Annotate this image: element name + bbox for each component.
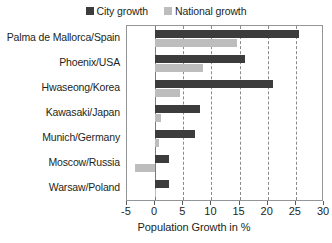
- x-tick-label: 15: [232, 205, 244, 218]
- bar-group: [127, 26, 322, 51]
- bar-national: [155, 89, 180, 97]
- x-axis-title: Population Growth in %: [0, 221, 332, 234]
- plot-inner: [127, 26, 322, 200]
- legend-swatch-national-growth: [164, 7, 172, 15]
- plot-area: [126, 25, 323, 201]
- legend-entry-national-growth: National growth: [164, 6, 246, 17]
- x-tick-label: 5: [179, 205, 185, 218]
- bar-city: [155, 80, 273, 88]
- bar-city: [155, 55, 245, 63]
- bar-national: [155, 139, 158, 147]
- bar-city: [155, 105, 200, 113]
- category-label: Kawasaki/Japan: [46, 106, 120, 118]
- bar-national: [155, 64, 203, 72]
- bar-group: [127, 51, 322, 76]
- legend-label-national-growth: National growth: [175, 6, 246, 17]
- category-label: Warsaw/Poland: [49, 181, 120, 193]
- bar-national: [135, 164, 155, 172]
- clipped-header-text: [0, 0, 332, 3]
- category-label: Phoenix/USA: [59, 56, 120, 68]
- category-label: Palma de Mallorca/Spain: [7, 31, 120, 43]
- x-axis-title-text: Population Growth in %: [138, 221, 251, 234]
- x-tick-label: 25: [289, 205, 301, 218]
- bar-national: [155, 189, 156, 197]
- bar-city: [155, 155, 169, 163]
- legend-swatch-city-growth: [86, 7, 94, 15]
- category-label: Hwaseong/Korea: [42, 81, 120, 93]
- x-tick-label: -5: [121, 205, 131, 218]
- category-label: Munich/Germany: [42, 131, 120, 143]
- bar-national: [155, 39, 237, 47]
- category-label: Moscow/Russia: [48, 156, 120, 168]
- bar-national: [155, 114, 161, 122]
- bar-city: [155, 130, 194, 138]
- chart-legend: City growth National growth: [0, 4, 332, 18]
- x-tick-label: 20: [261, 205, 273, 218]
- bar-group: [127, 101, 322, 126]
- x-tick-label: 30: [317, 205, 329, 218]
- bar-group: [127, 76, 322, 101]
- x-tick-label: 0: [151, 205, 157, 218]
- population-growth-bar-chart: City growth National growth Palma de Mal…: [0, 0, 332, 243]
- bar-group: [127, 152, 322, 177]
- bar-city: [155, 180, 169, 188]
- category-axis-labels: Palma de Mallorca/SpainPhoenix/USAHwaseo…: [0, 25, 123, 201]
- bar-group: [127, 177, 322, 202]
- legend-entry-city-growth: City growth: [86, 6, 148, 17]
- bar-group: [127, 127, 322, 152]
- legend-label-city-growth: City growth: [97, 6, 148, 17]
- bar-city: [155, 30, 299, 38]
- x-tick-label: 10: [204, 205, 216, 218]
